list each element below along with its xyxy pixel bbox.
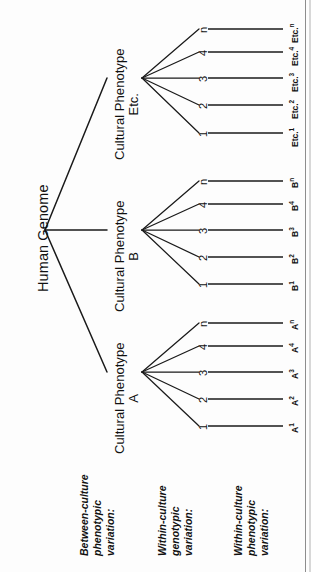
- genotype-a-4-text: 4: [197, 344, 209, 350]
- genotype-etc-n: n: [198, 27, 210, 33]
- phenotype-etc-4: Etc.4: [291, 47, 300, 66]
- leaves-a: [208, 323, 283, 426]
- root-label-text: Human Genome: [36, 184, 51, 292]
- phenotype-a-2-base: A: [290, 400, 300, 406]
- phenotype-etc-4-base: Etc.: [290, 50, 300, 66]
- genotype-b-1: 1: [198, 282, 210, 288]
- genotype-b-2-text: 2: [197, 255, 209, 261]
- fan-etc: [142, 29, 199, 133]
- genotype-a-3: 3: [198, 370, 210, 376]
- phenotype-b-n: Bn: [291, 178, 300, 188]
- category-within-culture-phenotypic-line-3: variation:: [258, 486, 271, 556]
- phenotype-a-3-sup: 3: [288, 369, 295, 373]
- branch-label-a-title: Cultural Phenotype: [113, 343, 127, 454]
- figure-page: Human Genome Cultural Phenotype Etc. Cul…: [0, 0, 311, 572]
- category-within-culture-phenotypic: Within-culture phenotypic variation:: [232, 486, 270, 556]
- branch-label-a: Cultural Phenotype A: [113, 343, 140, 454]
- phenotype-b-2-base: B: [290, 258, 300, 264]
- phenotype-etc-2: Etc.2: [291, 100, 300, 119]
- genotype-a-4: 4: [198, 344, 210, 350]
- genotype-a-2: 2: [198, 397, 210, 403]
- category-between-culture-line-2: phenotypic: [91, 474, 104, 556]
- genotype-b-n-text: n: [197, 179, 209, 185]
- phenotype-b-4-sup: 4: [288, 201, 295, 205]
- genotype-b-2: 2: [198, 255, 210, 261]
- phenotype-a-1: A1: [291, 423, 300, 433]
- genotype-etc-2: 2: [198, 103, 210, 109]
- genotype-b-4: 4: [198, 202, 210, 208]
- phenotype-etc-1: Etc.1: [291, 128, 300, 147]
- phenotype-etc-3-sup: 3: [288, 73, 295, 77]
- category-within-culture-genotypic-line-3: variation:: [182, 486, 195, 556]
- genotype-etc-4-text: 4: [197, 50, 209, 56]
- phenotype-b-4: B4: [291, 201, 300, 211]
- category-within-culture-genotypic: Within-culture genotypic variation:: [156, 486, 194, 556]
- phenotype-etc-n: Etc.n: [291, 23, 300, 43]
- phenotype-etc-n-base: Etc.: [290, 27, 300, 43]
- genotype-etc-1: 1: [198, 131, 210, 137]
- genotype-b-n: n: [198, 179, 210, 185]
- phenotype-a-4-sup: 4: [288, 343, 295, 347]
- category-within-culture-genotypic-line-2: genotypic: [169, 486, 182, 556]
- branch-label-a-subtitle: A: [127, 394, 141, 403]
- phenotype-etc-1-base: Etc.: [290, 131, 300, 147]
- genotype-a-1: 1: [198, 424, 210, 430]
- phenotype-a-n-base: A: [290, 324, 300, 330]
- category-within-culture-phenotypic-line-1: Within-culture: [232, 486, 245, 556]
- phenotype-a-4: A4: [291, 343, 300, 353]
- genotype-a-3-text: 3: [197, 370, 209, 376]
- root-edge-etc: [45, 78, 107, 230]
- phenotype-a-1-sup: 1: [288, 423, 295, 427]
- genotype-a-n: n: [198, 321, 210, 327]
- phenotype-a-2-sup: 2: [288, 396, 295, 400]
- genotype-b-3: 3: [198, 228, 210, 234]
- genotype-etc-4: 4: [198, 50, 210, 56]
- genotype-etc-1-text: 1: [197, 131, 209, 137]
- genotype-a-n-text: n: [197, 321, 209, 327]
- category-between-culture-line-3: variation:: [104, 474, 117, 556]
- genotype-etc-n-text: n: [197, 27, 209, 33]
- phenotype-b-3: B3: [291, 227, 300, 237]
- phenotype-a-n-sup: n: [288, 320, 295, 324]
- phenotype-b-4-base: B: [290, 205, 300, 211]
- category-within-culture-phenotypic-line-2: phenotypic: [245, 486, 258, 556]
- phenotype-etc-3-base: Etc.: [290, 76, 300, 92]
- branch-label-etc-subtitle: Etc.: [127, 93, 141, 116]
- phenotype-etc-2-sup: 2: [288, 100, 295, 104]
- leaves-b: [208, 181, 283, 284]
- phenotype-b-2: B2: [291, 254, 300, 264]
- genotype-etc-3: 3: [198, 76, 210, 82]
- genotype-a-1-text: 1: [197, 424, 209, 430]
- genotype-b-1-text: 1: [197, 282, 209, 288]
- genotype-etc-3-text: 3: [197, 76, 209, 82]
- phenotype-b-1-base: B: [290, 285, 300, 291]
- phenotype-b-1-sup: 1: [288, 281, 295, 285]
- phenotype-a-3-base: A: [290, 373, 300, 379]
- category-between-culture-line-1: Between-culture: [78, 474, 91, 556]
- branch-label-b: Cultural Phenotype B: [113, 201, 140, 312]
- phenotype-b-3-base: B: [290, 231, 300, 237]
- root-label: Human Genome: [36, 184, 51, 292]
- phenotype-etc-n-sup: n: [288, 23, 295, 27]
- branch-label-b-title: Cultural Phenotype: [113, 201, 127, 312]
- phenotype-a-2: A2: [291, 396, 300, 406]
- category-within-culture-genotypic-line-1: Within-culture: [156, 486, 169, 556]
- phenotype-b-3-sup: 3: [288, 227, 295, 231]
- phenotype-etc-3: Etc.3: [291, 73, 300, 92]
- phenotype-b-n-sup: n: [288, 178, 295, 182]
- phenotype-b-2-sup: 2: [288, 254, 295, 258]
- leaves-etc: [208, 29, 283, 133]
- phenotype-b-1: B1: [291, 281, 300, 291]
- phenotype-etc-4-sup: 4: [288, 47, 295, 51]
- genotype-b-3-text: 3: [197, 228, 209, 234]
- genotype-b-4-text: 4: [197, 202, 209, 208]
- branch-label-b-subtitle: B: [127, 252, 141, 261]
- root-edge-a: [45, 230, 107, 372]
- fan-b: [142, 181, 199, 284]
- phenotype-a-4-base: A: [290, 347, 300, 353]
- genotype-etc-2-text: 2: [197, 103, 209, 109]
- branch-label-etc-title: Cultural Phenotype: [113, 49, 127, 160]
- phenotype-etc-1-sup: 1: [288, 128, 295, 132]
- branch-label-etc: Cultural Phenotype Etc.: [113, 49, 140, 160]
- phenotype-a-3: A3: [291, 369, 300, 379]
